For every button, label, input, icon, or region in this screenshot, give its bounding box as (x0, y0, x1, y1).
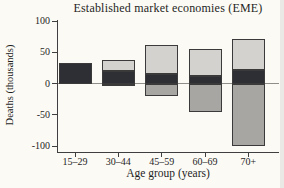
x-tick-label: 15–29 (53, 156, 97, 167)
chart-title: Established market economies (EME) (57, 2, 279, 16)
bar-segment-dark (232, 70, 265, 84)
y-tick (52, 114, 57, 115)
x-tick-label: 45–59 (140, 156, 184, 167)
y-tick (52, 52, 57, 53)
bar-segment-dark (59, 63, 92, 84)
y-axis-label: Deaths (thousands) (4, 45, 15, 126)
y-tick (52, 21, 57, 22)
bar-segment-negative-gray (102, 84, 135, 87)
bar-segment-negative-gray (189, 84, 222, 112)
x-tick-label: 30–44 (96, 156, 140, 167)
y-tick-label: 0 (24, 79, 50, 89)
y-tick-label: 100 (24, 16, 50, 26)
y-tick (52, 146, 57, 147)
chart: Established market economies (EME) Death… (0, 0, 284, 188)
x-axis-label: Age group (years) (57, 167, 279, 179)
x-axis-line (57, 152, 279, 153)
y-tick-label: -100 (24, 141, 50, 151)
photo-edge-shading (280, 0, 284, 188)
y-tick-label: -50 (24, 110, 50, 120)
y-tick (52, 83, 57, 84)
y-tick-label: 50 (24, 47, 50, 57)
bar-segment-light (232, 39, 265, 70)
bar-segment-light (145, 45, 178, 74)
y-axis-line (57, 20, 58, 152)
x-tick-label: 60–69 (183, 156, 227, 167)
bar-segment-light (102, 60, 135, 71)
bar-segment-light (189, 49, 222, 77)
bar-segment-dark (145, 74, 178, 83)
bar-segment-negative-gray (232, 84, 265, 147)
bar-segment-dark (102, 71, 135, 84)
plot-area: 100500-50-10015–2930–4445–5960–6970+ (57, 20, 279, 152)
x-tick-label: 70+ (226, 156, 270, 167)
bar-segment-dark (189, 76, 222, 84)
bar-segment-negative-gray (145, 84, 178, 97)
